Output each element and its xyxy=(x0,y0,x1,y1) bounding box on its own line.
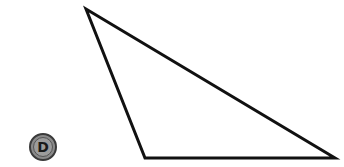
triangle-shape xyxy=(86,9,335,158)
diagram-canvas: D xyxy=(0,0,344,167)
badge-label: D xyxy=(37,139,49,155)
answer-option-badge[interactable]: D xyxy=(30,134,56,160)
